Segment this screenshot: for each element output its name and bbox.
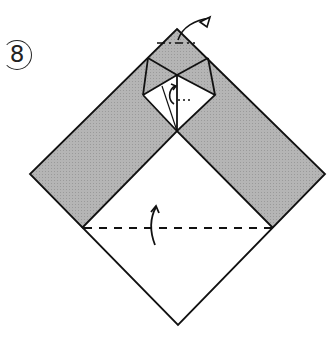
origami-diagram [0,0,332,353]
